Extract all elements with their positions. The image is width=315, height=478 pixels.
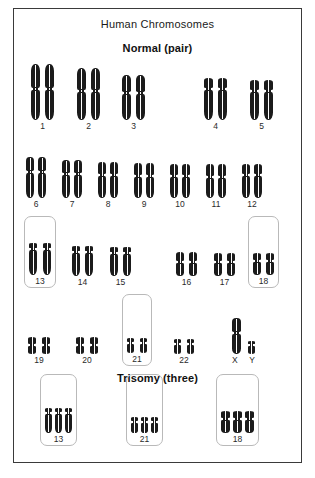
chromosome-short-arm xyxy=(28,337,36,344)
chromosome-label-22: 22 xyxy=(179,355,188,366)
chromosome-long-arm xyxy=(140,344,147,353)
chromosome-long-arm xyxy=(146,177,154,198)
chromosome-short-arm xyxy=(242,164,250,174)
chromosome-short-arm xyxy=(146,163,154,175)
chromosome-7 xyxy=(62,160,70,198)
karyotype-row-4: 19202122XY xyxy=(14,288,301,366)
chromosome-long-arm xyxy=(250,92,259,120)
chromosome-short-arm xyxy=(250,80,259,90)
chromosome-short-arm xyxy=(42,337,50,344)
chromosome-long-arm xyxy=(214,263,222,276)
normal-group-20: 20 xyxy=(76,298,98,366)
chromosome-1 xyxy=(45,64,54,120)
chromosome-long-arm xyxy=(206,178,214,198)
chromosome-long-arm xyxy=(123,254,131,276)
chromosome-17 xyxy=(214,253,222,276)
chromosome-17 xyxy=(227,253,235,276)
chromosome-long-arm xyxy=(28,346,36,354)
sex-chromosome-group: XY xyxy=(232,298,255,366)
chromosome-short-arm xyxy=(26,157,34,171)
normal-group-17: 17 xyxy=(214,220,235,288)
chromosome-13 xyxy=(45,408,52,433)
chromosome-long-arm xyxy=(232,334,241,354)
chromosome-long-arm xyxy=(227,263,235,276)
chromosome-long-arm xyxy=(204,90,213,120)
chromosome-long-arm xyxy=(136,94,145,120)
chromosome-4 xyxy=(204,78,213,120)
chromosome-short-arm xyxy=(218,164,226,176)
chromosome-long-arm xyxy=(253,262,261,275)
chromosome-long-arm xyxy=(170,177,178,198)
chromosome-short-arm xyxy=(253,253,261,260)
chromosome-long-arm xyxy=(218,90,227,120)
chromosome-short-arm xyxy=(206,164,214,176)
chromosome-15 xyxy=(123,247,131,276)
chromosome-long-arm xyxy=(91,92,100,120)
chromosome-cluster xyxy=(98,142,118,198)
chromosome-cluster xyxy=(45,377,72,433)
chromosome-cluster xyxy=(253,219,274,275)
chromosome-cluster xyxy=(250,64,273,120)
karyotype-figure: Human Chromosomes Normal (pair) 12345678… xyxy=(13,8,302,463)
chromosome-10 xyxy=(170,164,178,198)
chromosome-long-arm xyxy=(122,94,131,120)
chromosome-cluster xyxy=(221,377,254,433)
chromosome-long-arm xyxy=(65,414,72,433)
chromosome-long-arm xyxy=(38,173,46,198)
chromosome-label-3: 3 xyxy=(131,121,136,132)
chromosome-cluster xyxy=(62,142,82,198)
chromosome-label-21: 21 xyxy=(132,354,141,365)
chromosome-12 xyxy=(254,164,262,198)
chromosome-22 xyxy=(174,339,181,354)
chromosome-long-arm xyxy=(187,345,194,354)
chromosome-11 xyxy=(218,164,226,198)
chromosome-short-arm xyxy=(176,252,184,261)
chromosome-18 xyxy=(245,411,254,433)
chromosome-10 xyxy=(182,164,190,198)
chromosome-long-arm xyxy=(77,92,86,120)
chromosome-label-9: 9 xyxy=(142,199,147,210)
chromosome-13 xyxy=(65,408,72,433)
chromosome-label-8: 8 xyxy=(106,199,111,210)
chromosome-label-6: 6 xyxy=(34,199,39,210)
chromosome-long-arm xyxy=(151,423,158,433)
chromosome-8 xyxy=(110,162,118,198)
chromosome-short-arm xyxy=(232,318,241,332)
chromosome-label-18: 18 xyxy=(259,276,268,287)
chromosome-short-arm xyxy=(134,163,142,175)
chromosome-3 xyxy=(136,75,145,120)
normal-group-16: 16 xyxy=(176,220,197,288)
chromosome-short-arm xyxy=(98,162,106,174)
chromosome-short-arm xyxy=(266,253,274,260)
normal-group-3: 3 xyxy=(122,64,145,132)
chromosome-Y xyxy=(248,341,255,354)
chromosome-9 xyxy=(134,163,142,198)
chromosome-long-arm xyxy=(254,176,262,198)
normal-group-13: 13 xyxy=(24,216,56,288)
chromosome-18 xyxy=(233,411,242,433)
chromosome-18 xyxy=(266,253,274,275)
chromosome-long-arm xyxy=(248,346,255,354)
chromosome-15 xyxy=(110,247,118,276)
chromosome-long-arm xyxy=(76,346,84,354)
chromosome-short-arm xyxy=(214,253,222,261)
chromosome-20 xyxy=(90,337,98,354)
chromosome-short-arm xyxy=(254,164,262,174)
chromosome-long-arm xyxy=(62,175,70,198)
chromosome-cluster xyxy=(26,142,46,198)
chromosome-short-arm xyxy=(245,411,254,418)
normal-group-6: 6 xyxy=(26,142,46,210)
chromosome-2 xyxy=(77,68,86,120)
chromosome-long-arm xyxy=(221,420,230,433)
chromosome-short-arm xyxy=(110,162,118,174)
chromosome-14 xyxy=(72,246,80,276)
chromosome-label-2: 2 xyxy=(86,121,91,132)
chromosome-cluster xyxy=(174,298,194,354)
normal-group-22: 22 xyxy=(174,298,194,366)
chromosome-19 xyxy=(28,337,36,354)
chromosome-label-5: 5 xyxy=(259,121,264,132)
chromosome-short-arm xyxy=(122,75,131,92)
chromosome-label-20: 20 xyxy=(82,355,91,366)
chromosome-21 xyxy=(151,417,158,433)
chromosome-cluster xyxy=(206,142,226,198)
